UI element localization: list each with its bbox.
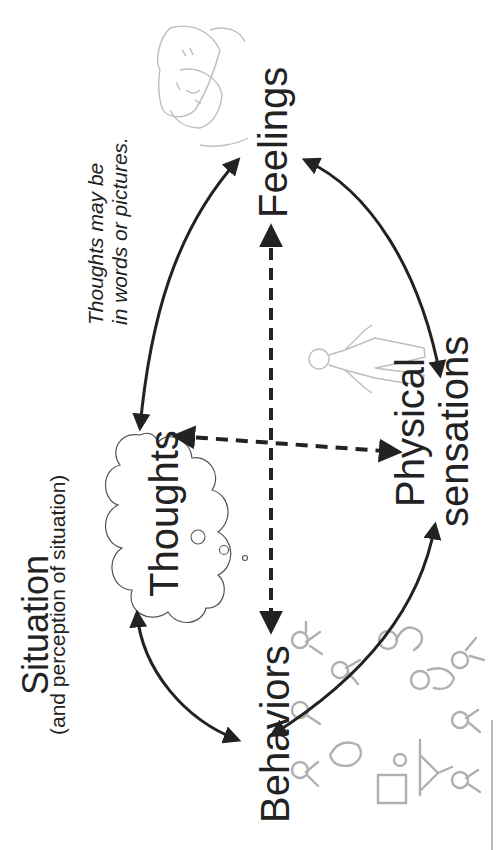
- situation-subtitle: (and perception of situation): [46, 475, 69, 735]
- activity-clipart-icon: [292, 622, 484, 803]
- cbt-diagram: Situation (and perception of situation) …: [0, 0, 500, 850]
- node-thoughts: Thoughts: [142, 430, 186, 597]
- node-behaviors: Behaviors: [253, 645, 297, 823]
- node-physical-line2: sensations: [432, 336, 476, 527]
- dashed-arrow-thoughts-physical: [176, 436, 398, 452]
- arrow-behaviors-thoughts: [137, 613, 238, 740]
- arrow-thoughts-feelings: [140, 160, 238, 428]
- node-physical-line1: Physical: [388, 358, 432, 507]
- thoughts-note-line2: in words or pictures.: [108, 137, 131, 325]
- theater-masks-icon: [158, 26, 248, 146]
- thoughts-note-line1: Thoughts may be: [84, 163, 107, 325]
- node-feelings: Feelings: [251, 67, 295, 218]
- arrow-feelings-physical: [305, 160, 440, 375]
